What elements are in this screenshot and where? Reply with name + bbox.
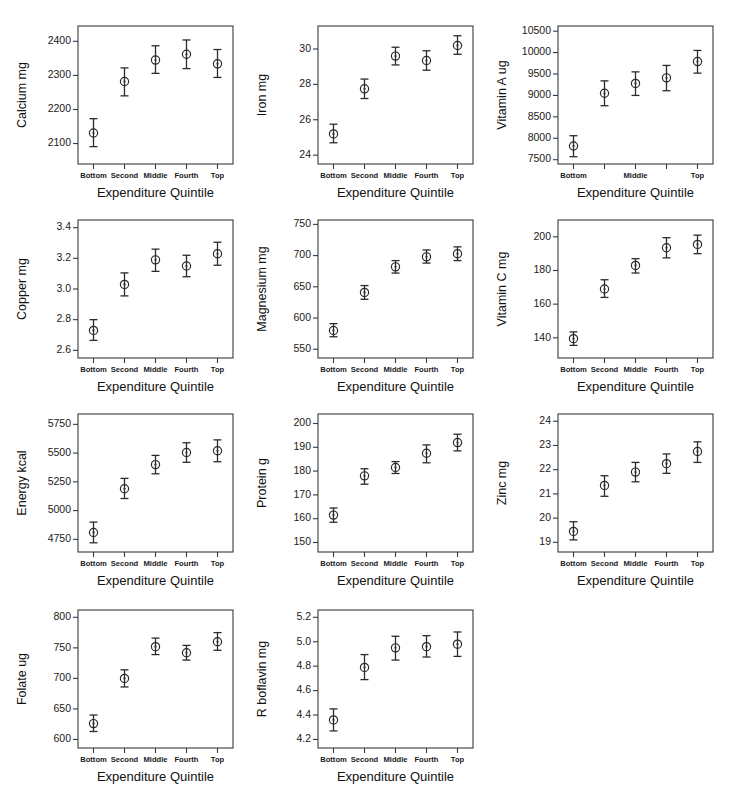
data-point bbox=[120, 68, 128, 96]
mean-marker-center bbox=[92, 132, 94, 134]
x-tick-label: Top bbox=[691, 559, 705, 568]
mean-marker-center bbox=[425, 646, 427, 648]
x-tick-label: Second bbox=[111, 559, 139, 568]
y-tick-label: 4.8 bbox=[296, 659, 311, 671]
y-tick-label: 600 bbox=[293, 311, 311, 323]
x-tick-label: Bottom bbox=[320, 171, 347, 180]
chart-panel-copper-mg: 2.62.83.03.23.4BottomSecondMiddleFourthT… bbox=[0, 198, 244, 398]
data-point bbox=[453, 247, 461, 261]
x-tick-label: Top bbox=[211, 755, 225, 764]
x-tick-label: Fourth bbox=[654, 559, 678, 568]
chart-panel-iron-mg: 24262830BottomSecondMiddleFourthTopIron … bbox=[240, 4, 484, 204]
x-tick-label: Middle bbox=[383, 171, 407, 180]
data-point bbox=[631, 462, 639, 481]
x-tick-label: Bottom bbox=[560, 171, 587, 180]
x-tick-label: Second bbox=[591, 559, 619, 568]
y-tick-label: 750 bbox=[53, 641, 71, 653]
chart-panel-r-boflavin-mg: 4.24.44.64.85.05.2BottomSecondMiddleFour… bbox=[240, 588, 484, 788]
mean-marker-center bbox=[332, 719, 334, 721]
mean-marker-center bbox=[216, 641, 218, 643]
y-tick-label: 4.4 bbox=[296, 708, 311, 720]
y-tick-label: 4.2 bbox=[296, 732, 311, 744]
mean-marker-center bbox=[665, 463, 667, 465]
data-point bbox=[151, 455, 159, 473]
data-point bbox=[422, 445, 430, 463]
chart-panel-vitamin-a-ug: 750080008500900095001000010500BottomMidd… bbox=[480, 4, 724, 204]
mean-marker-center bbox=[123, 488, 125, 490]
data-point bbox=[89, 119, 97, 147]
plot-frame bbox=[318, 414, 473, 552]
plot-frame bbox=[558, 220, 713, 358]
mean-marker-center bbox=[216, 253, 218, 255]
mean-marker-center bbox=[92, 329, 94, 331]
chart-panel-folate-ug: 600650700750800BottomSecondMiddleFourthT… bbox=[0, 588, 244, 788]
mean-marker-center bbox=[425, 452, 427, 454]
data-point bbox=[89, 715, 97, 731]
x-axis-label: Expenditure Quintile bbox=[577, 573, 694, 588]
data-point bbox=[422, 250, 430, 263]
mean-marker-center bbox=[572, 338, 574, 340]
x-tick-label: Second bbox=[111, 755, 139, 764]
plot-frame bbox=[558, 414, 713, 552]
x-tick-label: Middle bbox=[383, 755, 407, 764]
x-tick-label: Middle bbox=[623, 559, 647, 568]
y-axis-label: Protein g bbox=[255, 458, 269, 508]
y-tick-label: 4.6 bbox=[296, 683, 311, 695]
mean-marker-center bbox=[572, 530, 574, 532]
y-tick-label: 750 bbox=[293, 217, 311, 229]
y-tick-label: 5.2 bbox=[296, 610, 311, 622]
y-tick-label: 650 bbox=[293, 280, 311, 292]
x-tick-label: Second bbox=[351, 171, 379, 180]
chart-panel-calcium-mg: 2100220023002400BottomSecondMiddleFourth… bbox=[0, 4, 244, 204]
y-tick-label: 9500 bbox=[528, 67, 552, 79]
x-tick-label: Fourth bbox=[174, 365, 198, 374]
y-tick-label: 180 bbox=[533, 263, 551, 275]
y-tick-label: 700 bbox=[293, 248, 311, 260]
data-point bbox=[182, 40, 190, 69]
x-tick-label: Top bbox=[211, 365, 225, 374]
mean-marker-center bbox=[665, 247, 667, 249]
y-tick-label: 28 bbox=[299, 77, 311, 89]
data-point bbox=[213, 440, 221, 462]
y-tick-label: 21 bbox=[539, 487, 551, 499]
data-point bbox=[422, 51, 430, 70]
y-tick-label: 2200 bbox=[48, 102, 72, 114]
x-tick-label: Fourth bbox=[174, 559, 198, 568]
data-point bbox=[453, 632, 461, 656]
data-point bbox=[329, 124, 337, 143]
y-axis-label: Folate ug bbox=[15, 653, 29, 705]
x-tick-label: Top bbox=[211, 559, 225, 568]
data-point bbox=[151, 46, 159, 74]
y-axis-label: R boflavin mg bbox=[255, 641, 269, 717]
x-tick-label: Fourth bbox=[414, 755, 438, 764]
y-tick-label: 7500 bbox=[528, 152, 552, 164]
x-tick-label: Bottom bbox=[320, 755, 347, 764]
y-tick-label: 3.2 bbox=[56, 251, 71, 263]
y-tick-label: 24 bbox=[299, 148, 311, 160]
y-tick-label: 160 bbox=[533, 297, 551, 309]
chart-panel-zinc-mg: 192021222324BottomSecondMiddleFourthTopZ… bbox=[480, 392, 724, 592]
x-tick-label: Fourth bbox=[174, 755, 198, 764]
x-tick-label: Fourth bbox=[174, 171, 198, 180]
mean-marker-center bbox=[154, 259, 156, 261]
data-point bbox=[391, 636, 399, 660]
x-tick-label: Middle bbox=[383, 559, 407, 568]
x-axis-label: Expenditure Quintile bbox=[337, 769, 454, 784]
y-tick-label: 150 bbox=[293, 535, 311, 547]
chart-panel-energy-kcal: 47505000525055005750BottomSecondMiddleFo… bbox=[0, 392, 244, 592]
plot-frame bbox=[78, 610, 233, 748]
mean-marker-center bbox=[696, 60, 698, 62]
y-tick-label: 5250 bbox=[48, 475, 72, 487]
y-tick-label: 180 bbox=[293, 464, 311, 476]
y-tick-label: 9000 bbox=[528, 88, 552, 100]
mean-marker-center bbox=[332, 329, 334, 331]
x-axis-label: Expenditure Quintile bbox=[97, 769, 214, 784]
y-tick-label: 26 bbox=[299, 113, 311, 125]
data-point bbox=[120, 478, 128, 498]
x-tick-label: Bottom bbox=[80, 171, 107, 180]
data-point bbox=[631, 72, 639, 96]
plot-frame bbox=[318, 610, 473, 748]
data-point bbox=[120, 670, 128, 687]
data-point bbox=[693, 50, 701, 73]
data-point bbox=[360, 79, 368, 98]
